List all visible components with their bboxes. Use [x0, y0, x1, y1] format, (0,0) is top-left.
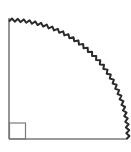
right-angle-marker: [10, 123, 26, 139]
quarter-circle-diagram: [0, 0, 131, 152]
wavy-arc: [9, 19, 129, 139]
